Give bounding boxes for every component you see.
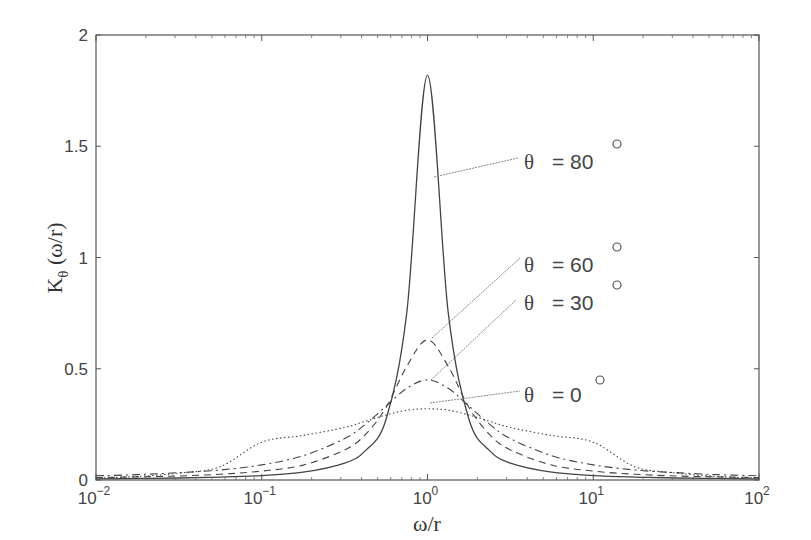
degree-symbol-icon: [613, 243, 621, 251]
annotation-theta: θ: [524, 253, 534, 277]
x-axis-label: ω/r: [413, 511, 442, 536]
curve-series-1: [96, 340, 759, 478]
annotation-leader-line: [430, 391, 520, 403]
x-tick-label: 102: [744, 484, 770, 508]
degree-symbol-icon: [613, 281, 621, 289]
annotation-leader-line: [431, 300, 516, 380]
y-tick-label: 0.5: [64, 360, 88, 379]
x-tick-label: 101: [578, 484, 604, 508]
curves: [96, 75, 759, 479]
curve-series-0: [96, 75, 759, 479]
plot-frame: [96, 35, 759, 480]
degree-symbol-icon: [596, 376, 604, 384]
degree-symbol-icon: [613, 140, 621, 148]
x-tick-label: 100: [413, 484, 439, 508]
annotation-value: = 60: [552, 253, 593, 276]
y-tick-label: 2: [79, 26, 88, 45]
annotation-value: = 80: [552, 150, 593, 173]
y-tick-label: 1.5: [64, 137, 88, 156]
curve-series-2: [96, 380, 759, 476]
chart: θ= 80θ= 60θ= 30θ= 0 00.511.5210−210−1100…: [0, 0, 811, 540]
annotation-leader-line: [432, 258, 520, 338]
plot-area-border: [96, 35, 759, 480]
annotations: θ= 80θ= 60θ= 30θ= 0: [430, 140, 621, 407]
annotation-value: = 0: [552, 383, 582, 406]
x-tick-label: 10−1: [243, 484, 276, 508]
y-tick-label: 1: [79, 249, 88, 268]
annotation-theta: θ: [524, 150, 534, 174]
annotation-theta: θ: [524, 291, 534, 315]
curve-series-3: [96, 409, 759, 478]
annotation-value: = 30: [552, 291, 593, 314]
y-axis-label: Kθ (ω/r): [42, 222, 71, 293]
svg-text:Kθ (ω/r): Kθ (ω/r): [42, 222, 71, 293]
annotation-theta: θ: [524, 383, 534, 407]
y-tick-label: 0: [79, 471, 88, 490]
annotation-leader-line: [434, 158, 518, 177]
axis-ticks: 00.511.5210−210−1100101102: [64, 26, 770, 508]
